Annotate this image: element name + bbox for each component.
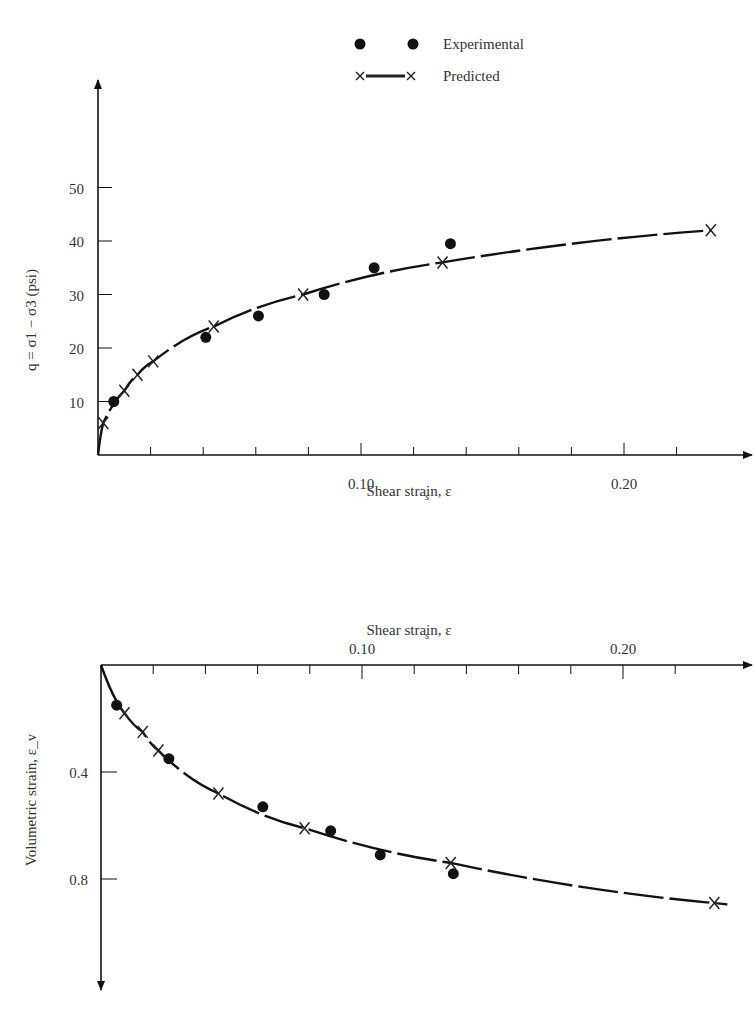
experimental-point-icon bbox=[325, 825, 336, 836]
experimental-point-icon bbox=[369, 262, 380, 273]
experimental-point-icon bbox=[445, 238, 456, 249]
legend-dot-icon bbox=[355, 39, 366, 50]
figure: Experimental Predicted 0.100.20102030405… bbox=[0, 0, 756, 1015]
experimental-point-icon bbox=[319, 289, 330, 300]
y-tick-label: 50 bbox=[69, 181, 84, 197]
volumetric-strain-chart: 0.100.20Shear strain, εs0.40.8Volumetric… bbox=[23, 622, 752, 990]
experimental-point-icon bbox=[448, 868, 459, 879]
legend: Experimental Predicted bbox=[355, 36, 524, 84]
legend-predicted-label: Predicted bbox=[443, 68, 500, 84]
legend-dot-icon bbox=[408, 39, 419, 50]
legend-predicted-line-icon bbox=[356, 72, 415, 80]
y-axis-label: q = σ1 − σ3 (psi) bbox=[23, 269, 40, 371]
experimental-point-icon bbox=[253, 310, 264, 321]
x-axis-label-subscript: s bbox=[425, 629, 429, 641]
predicted-point-icon bbox=[209, 321, 219, 333]
predicted-point-icon bbox=[132, 369, 142, 381]
predicted-curve bbox=[101, 665, 727, 904]
predicted-point-icon bbox=[153, 745, 163, 757]
experimental-point-icon bbox=[257, 801, 268, 812]
experimental-point-icon bbox=[375, 849, 386, 860]
predicted-point-icon bbox=[706, 224, 716, 236]
predicted-point-icon bbox=[138, 726, 148, 738]
predicted-point-icon bbox=[148, 355, 158, 367]
legend-experimental-label: Experimental bbox=[443, 36, 524, 52]
shear-stress-chart: 0.100.201020304050Shear strain, εsq = σ1… bbox=[23, 80, 752, 502]
experimental-point-icon bbox=[108, 396, 119, 407]
y-tick-label: 40 bbox=[69, 234, 84, 250]
x-axis-label-subscript: s bbox=[425, 490, 429, 502]
y-tick-label: 10 bbox=[69, 395, 84, 411]
predicted-curve bbox=[98, 230, 711, 455]
x-axis-label: Shear strain, ε bbox=[366, 622, 451, 638]
experimental-point-icon bbox=[163, 753, 174, 764]
x-tick-label: 0.20 bbox=[611, 476, 637, 492]
y-tick-label: 20 bbox=[69, 341, 84, 357]
x-axis-label: Shear strain, ε bbox=[366, 483, 451, 499]
y-axis-label: Volumetric strain, ε_v bbox=[23, 733, 39, 866]
experimental-point-icon bbox=[200, 332, 211, 343]
y-tick-label: 30 bbox=[69, 288, 84, 304]
y-tick-label: 0.4 bbox=[69, 765, 88, 781]
y-tick-label: 0.8 bbox=[69, 872, 88, 888]
experimental-point-icon bbox=[111, 700, 122, 711]
predicted-point-icon bbox=[119, 385, 129, 397]
predicted-point-icon bbox=[119, 707, 129, 719]
x-tick-label: 0.20 bbox=[610, 641, 636, 657]
x-tick-label: 0.10 bbox=[349, 641, 375, 657]
predicted-point-icon bbox=[213, 787, 223, 799]
